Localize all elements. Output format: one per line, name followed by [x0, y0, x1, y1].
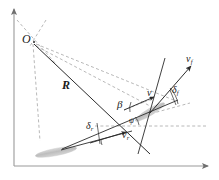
rear-wheel: [35, 144, 78, 159]
kinematics-diagram: O R vf δf v β ψ δr vr: [0, 0, 219, 180]
axis-group: [14, 9, 208, 166]
front-steer-angle-symbol: δ: [172, 84, 177, 95]
heading-angle-label: ψ: [129, 117, 134, 125]
rear-velocity-subscript: r: [127, 134, 130, 141]
center-of-rotation-point: [33, 41, 35, 43]
body-velocity-label: v: [147, 88, 151, 98]
diagram-canvas: [0, 0, 219, 180]
front-velocity-subscript: f: [191, 58, 193, 65]
body-velocity-vector: [124, 97, 154, 110]
front-velocity-label: vf: [186, 54, 192, 65]
sideslip-angle-label: β: [117, 99, 122, 110]
front-velocity-symbol: v: [186, 53, 190, 64]
rear-steer-angle-subscript: r: [91, 125, 94, 132]
velocity-construction-dashed-line: [36, 46, 150, 106]
upper-right-dashed-line: [30, 20, 46, 46]
rear-velocity-symbol: v: [122, 129, 126, 140]
turn-radius-line: [34, 44, 150, 154]
front-steer-angle-subscript: f: [177, 89, 179, 96]
angle-tick-marks: [97, 90, 176, 144]
rear-velocity-label: vr: [122, 130, 129, 141]
center-of-rotation-label: O: [22, 33, 31, 45]
rear-perpendicular-dashed-line: [33, 44, 40, 141]
front-steer-angle-label: δf: [172, 85, 179, 96]
rear-steer-angle-label: δr: [86, 121, 93, 132]
structure-lines: [34, 44, 178, 154]
rear-steer-angle-symbol: δ: [86, 120, 91, 131]
turn-radius-label: R: [62, 79, 70, 91]
rear-velocity-vector: [90, 132, 126, 143]
